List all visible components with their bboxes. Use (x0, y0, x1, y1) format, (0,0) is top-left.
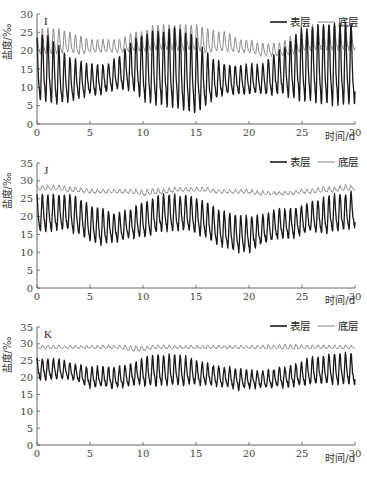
chart-panel-K: 05101520253035051015202530时间/d盐度/‰K表层底层 (1, 320, 361, 464)
x-axis-title: 时间/d (325, 130, 355, 142)
y-tick-label: 20 (20, 211, 33, 222)
y-tick-label: 30 (20, 338, 33, 349)
y-tick-label: 10 (20, 82, 33, 93)
y-tick-label: 25 (20, 193, 33, 204)
y-tick-label: 30 (20, 9, 33, 20)
legend-bottom-label: 底层 (338, 16, 358, 28)
y-tick-label: 25 (20, 355, 33, 366)
x-tick-label: 25 (296, 448, 309, 459)
x-tick-label: 0 (34, 291, 40, 302)
y-tick-label: 30 (20, 175, 33, 186)
x-tick-label: 10 (137, 127, 150, 138)
panel-label: I (44, 15, 48, 27)
y-tick-label: 15 (20, 64, 33, 75)
x-tick-label: 10 (137, 291, 150, 302)
x-tick-label: 0 (34, 448, 40, 459)
y-axis-title: 盐度/‰ (1, 173, 13, 210)
y-tick-label: 10 (20, 406, 33, 417)
x-axis-title: 时间/d (325, 294, 355, 306)
y-tick-label: 0 (27, 283, 33, 294)
y-tick-label: 35 (20, 158, 33, 169)
x-tick-label: 20 (243, 291, 256, 302)
y-tick-label: 20 (20, 372, 33, 383)
x-tick-label: 5 (87, 291, 93, 302)
legend-bottom-label: 底层 (338, 320, 358, 332)
panel-label: K (44, 328, 52, 340)
bottom-salinity-line (37, 344, 355, 351)
y-tick-label: 0 (27, 440, 33, 451)
surface-salinity-line (37, 352, 355, 390)
x-tick-label: 5 (87, 448, 93, 459)
y-tick-label: 20 (20, 45, 33, 56)
bottom-salinity-line (37, 185, 355, 196)
legend-surface-label: 表层 (290, 16, 310, 28)
legend-surface-label: 表层 (290, 156, 310, 168)
x-tick-label: 20 (243, 448, 256, 459)
x-tick-label: 5 (87, 127, 93, 138)
legend-bottom-label: 底层 (338, 156, 358, 168)
y-tick-label: 5 (27, 100, 33, 111)
y-tick-label: 15 (20, 389, 33, 400)
x-tick-label: 25 (296, 291, 309, 302)
chart-panel-J: 05101520253035051015202530时间/d盐度/‰J表层底层 (1, 156, 361, 306)
chart-panel-I: 051015202530051015202530时间/d盐度/‰I表层底层 (1, 9, 361, 143)
y-axis-title: 盐度/‰ (1, 337, 13, 374)
y-tick-label: 0 (27, 119, 33, 130)
x-tick-label: 20 (243, 127, 256, 138)
x-axis-title: 时间/d (325, 452, 355, 464)
y-tick-label: 35 (20, 322, 33, 333)
y-tick-label: 5 (27, 423, 33, 434)
panel-label: J (44, 164, 49, 176)
x-tick-label: 15 (190, 448, 203, 459)
legend-surface-label: 表层 (290, 320, 310, 332)
x-tick-label: 15 (190, 291, 203, 302)
x-tick-label: 15 (190, 127, 203, 138)
y-tick-label: 10 (20, 247, 33, 258)
y-tick-label: 25 (20, 27, 33, 38)
x-tick-label: 25 (296, 127, 309, 138)
surface-salinity-line (37, 191, 355, 253)
y-tick-label: 15 (20, 229, 33, 240)
x-tick-label: 10 (137, 448, 150, 459)
y-tick-label: 5 (27, 265, 33, 276)
salinity-figure: 051015202530051015202530时间/d盐度/‰I表层底层 05… (0, 0, 367, 488)
x-tick-label: 0 (34, 127, 40, 138)
y-axis-title: 盐度/‰ (1, 24, 13, 61)
